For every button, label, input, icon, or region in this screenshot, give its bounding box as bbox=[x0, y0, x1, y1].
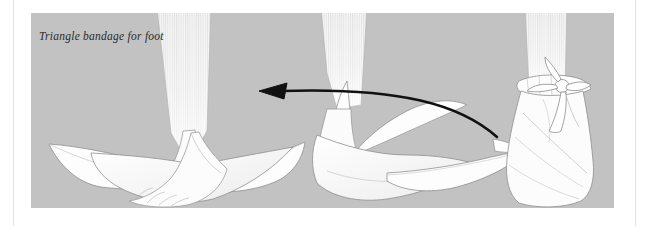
bandage-illustration bbox=[31, 13, 614, 208]
page-margin-rule-right bbox=[635, 0, 636, 226]
illustration-panel: Triangle bandage for foot bbox=[31, 13, 614, 208]
figure-page: Triangle bandage for foot bbox=[0, 0, 649, 226]
step-3-foot-wrap bbox=[507, 91, 594, 207]
figure-caption: Triangle bandage for foot bbox=[39, 30, 164, 42]
page-margin-rule-left bbox=[13, 0, 14, 226]
